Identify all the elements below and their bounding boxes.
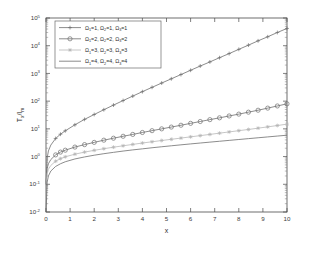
x-tick-label: 9: [261, 215, 265, 222]
svg-text:Tx/Im: Tx/Im: [16, 108, 25, 123]
curve-series-2: [46, 104, 287, 184]
y-tick-label: 100: [31, 152, 41, 160]
y-tick-label: 104: [31, 41, 41, 49]
y-tick-label: 103: [31, 69, 41, 77]
y-tick-label: 101: [31, 124, 41, 132]
curve-series-4: [46, 135, 287, 212]
x-axis-tick-labels: 012345678910: [44, 215, 291, 222]
curve-series-3: [46, 124, 287, 184]
y-axis-tick-labels: 10-210-1100101102103104105: [29, 14, 40, 216]
x-tick-label: 2: [92, 215, 96, 222]
y-tick-label: 102: [31, 97, 41, 105]
y-axis-title-sub2: m: [20, 108, 25, 112]
x-tick-label: 7: [213, 215, 217, 222]
x-tick-label: 4: [141, 215, 145, 222]
x-tick-label: 1: [68, 215, 72, 222]
x-axis-title: x: [165, 227, 169, 234]
x-tick-label: 10: [284, 215, 291, 222]
legend: Ω1=1, Ω2=1, Ω3=1Ω1=2, Ω2=2, Ω3=2Ω1=3, Ω2…: [55, 21, 161, 68]
x-tick-label: 5: [165, 215, 169, 222]
x-tick-label: 3: [117, 215, 121, 222]
x-tick-label: 6: [189, 215, 193, 222]
y-tick-label: 10-1: [29, 180, 40, 188]
x-tick-label: 0: [44, 215, 48, 222]
x-tick-label: 8: [237, 215, 241, 222]
y-tick-label: 10-2: [29, 208, 40, 216]
y-axis-title: Tx/Im: [16, 108, 25, 123]
line-chart: 10-210-1100101102103104105 012345678910 …: [0, 0, 311, 257]
y-tick-label: 105: [31, 14, 41, 22]
figure-container: 10-210-1100101102103104105 012345678910 …: [0, 0, 311, 257]
